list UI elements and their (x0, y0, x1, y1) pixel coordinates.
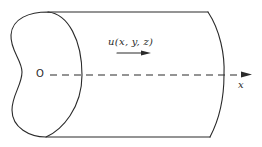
x-axis-arrowhead (241, 72, 252, 78)
origin-label: O (36, 69, 44, 79)
velocity-label: u(x, y, z) (108, 37, 153, 47)
cross-section-outline (11, 12, 82, 137)
velocity-arrowhead (141, 51, 151, 56)
x-axis-label: x (238, 80, 244, 90)
